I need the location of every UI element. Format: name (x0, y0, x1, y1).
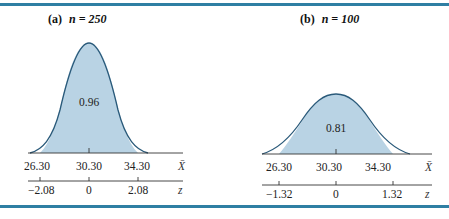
panel-a-z-tick: 2.08 (128, 184, 148, 196)
panel-b-x-tick: 34.30 (365, 161, 391, 173)
panel-b-title: (b) n = 100 (300, 12, 359, 26)
panel-b-z-tick: 0 (333, 188, 339, 200)
panel-a-x-tick: 34.30 (124, 160, 150, 172)
panel-a-x-tick: 30.30 (76, 160, 102, 172)
panel-b-z-label: z (424, 188, 430, 200)
panel-b-z-tick: 1.32 (382, 188, 402, 200)
panel-a-z-label: z (177, 184, 183, 196)
panel-a-z-tick: 0 (86, 184, 92, 196)
panel-a-z-tick: −2.08 (28, 184, 55, 196)
panel-a-x-label: X̄ (177, 160, 186, 172)
panel-b-probability-label: 0.81 (326, 122, 346, 134)
panel-a-title: (a) n = 250 (48, 12, 107, 26)
panel-a-probability-label: 0.96 (79, 96, 99, 108)
panel-b-z-tick: −1.32 (266, 188, 293, 200)
panel-b-x-label: X̄ (424, 161, 433, 173)
chart-figure: (a) n = 250 26.30 30.30 34.30 X̄ −2.08 0… (0, 0, 449, 219)
panel-b-x-tick: 30.30 (316, 161, 342, 173)
panel-a-x-tick: 26.30 (24, 160, 50, 172)
panel-b-x-tick: 26.30 (266, 161, 292, 173)
panel-b: (b) n = 100 26.30 30.30 34.30 X̄ −1.32 0… (262, 12, 433, 200)
panel-a: (a) n = 250 26.30 30.30 34.30 X̄ −2.08 0… (24, 12, 186, 196)
